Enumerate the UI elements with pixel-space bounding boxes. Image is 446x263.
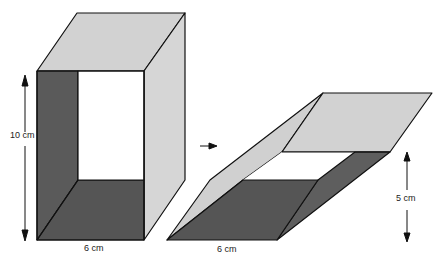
diagram-canvas: 10 cm 6 cm 5 cm 6 cm <box>0 0 446 263</box>
right-height-label: 5 cm <box>396 193 416 203</box>
right-sheared-box <box>167 93 432 240</box>
left-width-label: 6 cm <box>84 243 104 253</box>
left-height-label: 10 cm <box>10 130 35 140</box>
left-box-opening <box>78 71 144 180</box>
right-box-top-face <box>282 93 432 152</box>
height-arrow-left <box>22 75 28 241</box>
left-upright-box <box>37 13 185 240</box>
right-width-label: 6 cm <box>217 244 237 254</box>
prism-diagram <box>0 0 446 263</box>
transform-arrow-icon <box>200 143 217 149</box>
